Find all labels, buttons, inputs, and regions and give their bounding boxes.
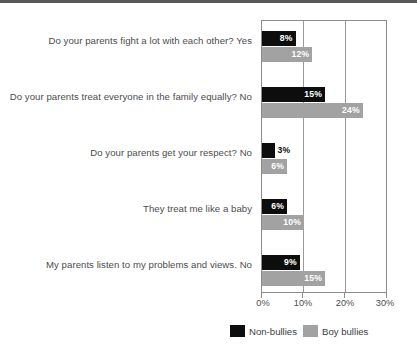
bar-value-label: 24% <box>342 103 360 118</box>
category-label: Do your parents treat everyone in the fa… <box>0 91 252 102</box>
chart-legend: Non-bullies Boy bullies <box>230 325 368 337</box>
bar-value-label: 9% <box>284 255 297 270</box>
legend-item-boy-bullies[interactable]: Boy bullies <box>303 325 368 337</box>
category-label: My parents listen to my problems and vie… <box>0 259 252 270</box>
bar-boybullies[interactable]: 10% <box>262 215 304 230</box>
x-axis-tick-labels: 0% 10% 20% 30% <box>261 298 387 312</box>
bar-value-label: 15% <box>304 87 322 102</box>
bar-value-label: 8% <box>280 31 293 46</box>
plot-area: 8% 12% 15% 24% 3% 6% <box>261 20 387 293</box>
legend-item-non-bullies[interactable]: Non-bullies <box>230 325 297 337</box>
category-label: Do your parents fight a lot with each ot… <box>0 35 252 46</box>
bar-value-label: 15% <box>304 271 322 286</box>
horizontal-bar-chart: Do your parents fight a lot with each ot… <box>0 0 417 356</box>
category-label: Do your parents get your respect? No <box>0 147 252 158</box>
bar-value-label: 6% <box>271 159 284 174</box>
bar-value-label: 12% <box>292 47 310 62</box>
bar-value-label: 3% <box>278 143 291 158</box>
bar-value-label: 6% <box>271 199 284 214</box>
category-axis-labels: Do your parents fight a lot with each ot… <box>0 20 256 293</box>
bar-nonbullies[interactable]: 9% <box>262 255 300 270</box>
bar-value-label: 10% <box>283 215 301 230</box>
legend-swatch-icon <box>303 325 318 337</box>
category-label: They treat me like a baby <box>0 203 252 214</box>
bar-nonbullies[interactable]: 15% <box>262 87 325 102</box>
x-tick-label: 10% <box>294 298 312 308</box>
legend-label: Boy bullies <box>322 326 368 337</box>
bar-boybullies[interactable]: 6% <box>262 159 287 174</box>
x-tick-label: 0% <box>256 298 269 308</box>
legend-swatch-icon <box>230 325 245 337</box>
legend-label: Non-bullies <box>249 326 297 337</box>
bar-boybullies[interactable]: 15% <box>262 271 325 286</box>
bar-boybullies[interactable]: 24% <box>262 103 363 118</box>
x-tick-label: 30% <box>376 298 394 308</box>
bar-nonbullies[interactable]: 8% <box>262 31 296 46</box>
bar-nonbullies[interactable]: 6% <box>262 199 287 214</box>
bar-nonbullies[interactable]: 3% <box>262 143 275 158</box>
gridline-20 <box>345 21 346 292</box>
x-tick-label: 20% <box>336 298 354 308</box>
bar-boybullies[interactable]: 12% <box>262 47 312 62</box>
